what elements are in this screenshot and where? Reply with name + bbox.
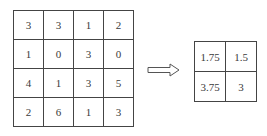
matrix-cell: 1	[44, 69, 74, 98]
matrix-cell: 3	[74, 40, 104, 69]
matrix-cell: 1	[14, 40, 44, 69]
matrix-cell: 3	[74, 69, 104, 98]
matrix-cell: 4	[14, 69, 44, 98]
matrix-row: 2 6 1 3	[14, 98, 134, 127]
matrix-cell: 2	[104, 11, 134, 40]
matrix-cell: 3.75	[195, 72, 226, 102]
matrix-cell: 1	[74, 98, 104, 127]
matrix-cell: 1.5	[226, 42, 257, 72]
matrix-cell: 3	[226, 72, 257, 102]
matrix-cell: 0	[104, 40, 134, 69]
matrix-cell: 3	[44, 11, 74, 40]
matrix-cell: 1.75	[195, 42, 226, 72]
matrix-cell: 3	[104, 98, 134, 127]
matrix-row: 3 3 1 2	[14, 11, 134, 40]
matrix-row: 1 0 3 0	[14, 40, 134, 69]
matrix-cell: 6	[44, 98, 74, 127]
output-matrix: 1.75 1.5 3.75 3	[194, 41, 257, 102]
matrix-row: 1.75 1.5	[195, 42, 257, 72]
input-matrix: 3 3 1 2 1 0 3 0 4 1 3 5 2 6 1 3	[13, 10, 134, 127]
matrix-cell: 5	[104, 69, 134, 98]
matrix-row: 4 1 3 5	[14, 69, 134, 98]
matrix-cell: 3	[14, 11, 44, 40]
matrix-row: 3.75 3	[195, 72, 257, 102]
matrix-cell: 2	[14, 98, 44, 127]
matrix-cell: 0	[44, 40, 74, 69]
matrix-cell: 1	[74, 11, 104, 40]
right-arrow-icon	[147, 63, 181, 77]
